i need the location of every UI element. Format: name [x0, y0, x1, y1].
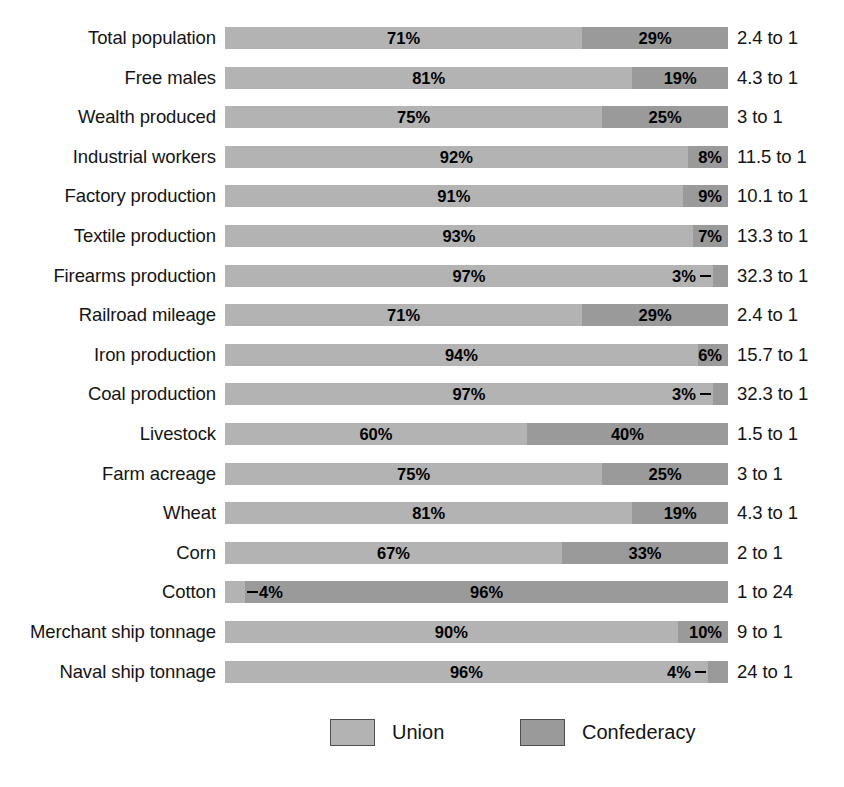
stacked-bar: 60%40% — [225, 423, 728, 445]
stacked-bar: 96%4% — [225, 661, 728, 683]
row-label: Railroad mileage — [0, 302, 216, 328]
chart-row: Industrial workers92%8%11.5 to 1 — [0, 144, 844, 170]
chart-row: Livestock60%40%1.5 to 1 — [0, 421, 844, 447]
ratio-label: 13.3 to 1 — [737, 223, 808, 249]
ratio-label: 4.3 to 1 — [737, 500, 798, 526]
chart-row: Railroad mileage71%29%2.4 to 1 — [0, 302, 844, 328]
stacked-bar: 71%29% — [225, 304, 728, 326]
chart-row: Iron production94%6%15.7 to 1 — [0, 342, 844, 368]
chart-row: Farm acreage75%25%3 to 1 — [0, 461, 844, 487]
row-label: Naval ship tonnage — [0, 659, 216, 685]
chart-row: Wheat81%19%4.3 to 1 — [0, 500, 844, 526]
ratio-label: 32.3 to 1 — [737, 263, 808, 289]
ratio-label: 1 to 24 — [737, 579, 793, 605]
chart-row: Naval ship tonnage96%4%24 to 1 — [0, 659, 844, 685]
chart-row: Coal production97%3%32.3 to 1 — [0, 381, 844, 407]
union-percent-label: 60% — [225, 423, 527, 445]
stacked-bar: 97%3% — [225, 265, 728, 287]
row-label: Wealth produced — [0, 104, 216, 130]
row-label: Total population — [0, 25, 216, 51]
bar-segment-confederacy — [713, 265, 728, 287]
row-label: Free males — [0, 65, 216, 91]
row-label: Factory production — [0, 183, 216, 209]
chart-row: Merchant ship tonnage90%10%9 to 1 — [0, 619, 844, 645]
chart-row: Factory production91%9%10.1 to 1 — [0, 183, 844, 209]
row-label: Iron production — [0, 342, 216, 368]
chart-row: Wealth produced75%25%3 to 1 — [0, 104, 844, 130]
union-percent-label: 81% — [225, 502, 632, 524]
stacked-bar: 71%29% — [225, 27, 728, 49]
row-label: Merchant ship tonnage — [0, 619, 216, 645]
bar-segment-union — [225, 581, 245, 603]
stacked-bar: 92%8% — [225, 146, 728, 168]
bar-segment-confederacy — [713, 383, 728, 405]
chart-row: Free males81%19%4.3 to 1 — [0, 65, 844, 91]
stacked-bar: 97%3% — [225, 383, 728, 405]
row-label: Cotton — [0, 579, 216, 605]
stacked-bar: 90%10% — [225, 621, 728, 643]
row-label: Textile production — [0, 223, 216, 249]
stacked-bar: 81%19% — [225, 502, 728, 524]
confederacy-percent-label: 3% — [225, 265, 696, 287]
stacked-bar: 94%6% — [225, 344, 728, 366]
legend-label-confederacy: Confederacy — [582, 715, 695, 749]
chart-legend: Union Confederacy — [0, 715, 844, 765]
chart-row: Firearms production97%3%32.3 to 1 — [0, 263, 844, 289]
leader-dash — [695, 671, 706, 673]
row-label: Firearms production — [0, 263, 216, 289]
stacked-bar: 91%9% — [225, 185, 728, 207]
chart-canvas: Total population71%29%2.4 to 1Free males… — [0, 0, 844, 787]
ratio-label: 9 to 1 — [737, 619, 783, 645]
row-label: Farm acreage — [0, 461, 216, 487]
legend-swatch-union — [330, 719, 375, 746]
chart-row: Textile production93%7%13.3 to 1 — [0, 223, 844, 249]
confederacy-percent-label: 19% — [632, 67, 728, 89]
confederacy-percent-label: 29% — [582, 304, 728, 326]
row-label: Industrial workers — [0, 144, 216, 170]
stacked-bar: 81%19% — [225, 67, 728, 89]
leader-dash — [700, 275, 711, 277]
confederacy-percent-label: 4% — [225, 661, 691, 683]
ratio-label: 2 to 1 — [737, 540, 783, 566]
ratio-label: 3 to 1 — [737, 104, 783, 130]
union-percent-label: 67% — [225, 542, 562, 564]
ratio-label: 4.3 to 1 — [737, 65, 798, 91]
confederacy-percent-label: 8% — [225, 146, 722, 168]
legend-label-union: Union — [392, 715, 444, 749]
ratio-label: 15.7 to 1 — [737, 342, 808, 368]
confederacy-percent-label: 7% — [225, 225, 722, 247]
ratio-label: 24 to 1 — [737, 659, 793, 685]
confederacy-percent-label: 10% — [225, 621, 722, 643]
ratio-label: 11.5 to 1 — [737, 144, 807, 170]
row-label: Livestock — [0, 421, 216, 447]
confederacy-percent-label: 25% — [602, 106, 728, 128]
row-label: Corn — [0, 540, 216, 566]
stacked-bar: 75%25% — [225, 106, 728, 128]
union-percent-label: 75% — [225, 463, 602, 485]
union-percent-label: 81% — [225, 67, 632, 89]
confederacy-percent-label: 25% — [602, 463, 728, 485]
chart-row: Corn67%33%2 to 1 — [0, 540, 844, 566]
ratio-label: 3 to 1 — [737, 461, 783, 487]
confederacy-percent-label: 33% — [562, 542, 728, 564]
row-label: Wheat — [0, 500, 216, 526]
legend-swatch-confederacy — [520, 719, 565, 746]
stacked-bar: 4%96% — [225, 581, 728, 603]
row-label: Coal production — [0, 381, 216, 407]
bar-segment-confederacy — [708, 661, 728, 683]
confederacy-percent-label: 40% — [527, 423, 728, 445]
union-percent-label: 75% — [225, 106, 602, 128]
leader-dash — [700, 393, 711, 395]
chart-row: Cotton4%96%1 to 24 — [0, 579, 844, 605]
confederacy-percent-label: 19% — [632, 502, 728, 524]
confederacy-percent-label: 9% — [225, 185, 722, 207]
union-percent-label: 71% — [225, 304, 582, 326]
confederacy-percent-label: 96% — [245, 581, 728, 603]
chart-row: Total population71%29%2.4 to 1 — [0, 25, 844, 51]
ratio-label: 2.4 to 1 — [737, 25, 798, 51]
stacked-bar: 93%7% — [225, 225, 728, 247]
confederacy-percent-label: 6% — [225, 344, 722, 366]
stacked-bar: 75%25% — [225, 463, 728, 485]
stacked-bar: 67%33% — [225, 542, 728, 564]
ratio-label: 32.3 to 1 — [737, 381, 808, 407]
